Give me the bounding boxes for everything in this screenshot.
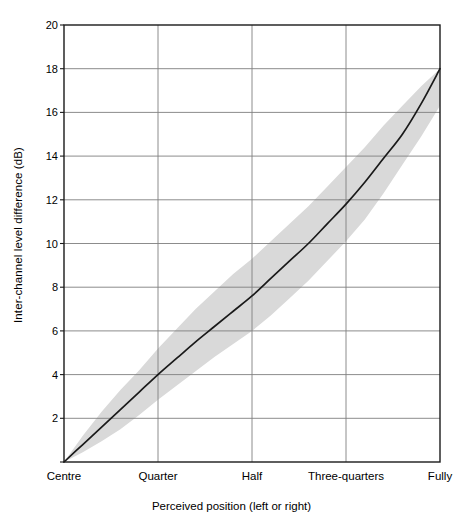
x-axis-tick-label: Three-quarters — [308, 470, 384, 482]
chart-figure: Inter-channel level difference (dB) 2468… — [0, 0, 463, 529]
y-axis-tick-label: 14 — [30, 150, 58, 162]
y-axis-tick-label: 12 — [30, 194, 58, 206]
x-axis-tick-label: Fully — [428, 470, 452, 482]
x-axis-tick-label: Half — [242, 470, 262, 482]
x-axis-tick-label: Centre — [47, 470, 82, 482]
y-axis-tick-label: 6 — [30, 325, 58, 337]
y-axis-tick-label: 2 — [30, 412, 58, 424]
y-axis-tick-label: 10 — [30, 238, 58, 250]
y-axis-tick-label: 18 — [30, 63, 58, 75]
plot-area — [0, 0, 463, 529]
x-axis-title: Perceived position (left or right) — [0, 500, 463, 512]
y-axis-tick-label: 8 — [30, 281, 58, 293]
x-axis-tick-label: Quarter — [139, 470, 178, 482]
y-axis-tick-label: 16 — [30, 106, 58, 118]
y-axis-tick-label: 4 — [30, 369, 58, 381]
y-axis-tick-label: 20 — [30, 19, 58, 31]
y-axis-tick-labels: 2468101214161820 — [30, 0, 58, 529]
